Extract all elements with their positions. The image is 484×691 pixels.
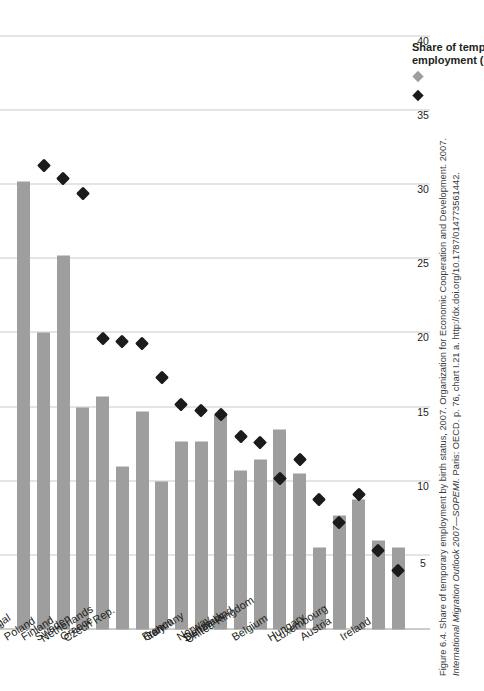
caption-source-rest: Paris: OECD. p. 76, chart I.21 a. http:/… [451,172,461,478]
bar-native-born-hungary [333,515,346,629]
figure-caption: Figure 6.4. Share of temporary employmen… [430,0,484,691]
bar-native-born-spain [17,181,30,629]
tick-label-15: 15 [417,405,429,417]
caption-line-1: Figure 6.4. Share of temporary employmen… [437,16,450,676]
series-rows-group: 56SpainPortugalPolandFinlandSwedenGreece… [0,0,430,691]
chart-figure: 56SpainPortugalPolandFinlandSwedenGreece… [0,0,430,691]
bar-native-born-switzerland [273,429,286,629]
caption-source-title: International Migration Outlook 2007—SOP… [451,478,461,676]
plot-canvas: 56SpainPortugalPolandFinlandSwedenGreece… [0,0,430,691]
bar-native-born-poland [57,255,70,629]
bar-native-born-greece [116,466,129,629]
bar-native-born-italy [175,441,188,629]
bar-native-born-sweden [96,396,109,629]
tick-label-35: 35 [417,108,429,120]
tick-label-25: 25 [417,257,429,269]
tick-label-20: 20 [417,331,429,343]
chart-plot-stage: 56SpainPortugalPolandFinlandSwedenGreece… [0,0,430,691]
bar-native-born-netherlands [136,411,149,629]
legend-item-native-born [412,70,428,82]
caption-line-2: International Migration Outlook 2007—SOP… [450,16,463,676]
bar-native-born-germany [214,414,227,629]
tick-label-10: 10 [417,479,429,491]
tick-label-40: 40 [417,34,429,46]
tick-label-5: 5 [420,556,426,568]
legend-item-foreign-born [412,89,428,101]
bar-native-born-portugal [37,333,50,630]
legend-diamond-icon [412,70,423,81]
legend-diamond-icon [412,89,423,100]
bar-native-born-france [195,441,208,629]
tick-label-30: 30 [417,182,429,194]
bar-native-born-austria [352,499,365,629]
bar-native-born-belgium [293,473,306,629]
bar-native-born-finland [76,407,89,629]
bar-native-born-ireland [392,547,405,629]
bar-native-born-czech-rep [155,481,168,629]
